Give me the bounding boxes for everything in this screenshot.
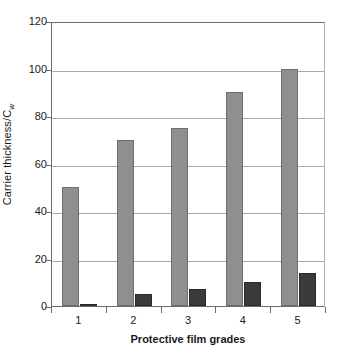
bar [189, 289, 206, 306]
bar [62, 187, 79, 306]
x-axis-title: Protective film grades [51, 333, 325, 345]
bar [135, 294, 152, 306]
y-axis-title-subscript: w [8, 104, 17, 110]
bar-chart: Carrier thickness/Cw 020406080100120 123… [0, 0, 338, 354]
y-axis-tick-label: 0 [18, 301, 47, 312]
y-axis-title: Carrier thickness/Cw [0, 0, 18, 310]
bar [171, 128, 188, 306]
x-axis-tick-mark [325, 307, 326, 313]
x-axis-tick-label: 1 [75, 314, 81, 326]
bar [281, 69, 298, 307]
plot-area [51, 22, 325, 307]
x-axis-tick-mark [106, 307, 107, 313]
bar [244, 282, 261, 306]
y-axis-tick-mark [45, 70, 51, 71]
y-axis-tick-mark [45, 165, 51, 166]
y-axis-tick-label: 120 [18, 16, 47, 27]
y-axis-tick-labels: 020406080100120 [18, 0, 47, 330]
x-axis-tick-mark [51, 307, 52, 313]
y-axis-tick-mark [45, 22, 51, 23]
y-axis-tick-mark [45, 212, 51, 213]
x-axis-tick-mark [270, 307, 271, 313]
x-axis-tick-label: 4 [240, 314, 246, 326]
bar [117, 140, 134, 306]
bar [226, 92, 243, 306]
y-axis-tick-label: 40 [18, 206, 47, 217]
x-axis-tick-mark [215, 307, 216, 313]
bar-group [107, 23, 162, 306]
x-axis-tick-label: 3 [185, 314, 191, 326]
bar [80, 304, 97, 306]
y-axis-tick-mark [45, 260, 51, 261]
bar-group [52, 23, 107, 306]
bar-group [162, 23, 217, 306]
y-axis-tick-label: 60 [18, 159, 47, 170]
x-axis-tick-label: 2 [130, 314, 136, 326]
x-axis-tick-labels: 12345 [51, 314, 325, 330]
y-axis-tick-label: 100 [18, 64, 47, 75]
x-axis-tick-mark [161, 307, 162, 313]
y-axis-title-text: Carrier thickness/C [1, 110, 13, 205]
bar-group [271, 23, 326, 306]
bar [299, 273, 316, 306]
bar-group [216, 23, 271, 306]
y-axis-tick-label: 80 [18, 111, 47, 122]
y-axis-tick-mark [45, 117, 51, 118]
x-axis-tick-label: 5 [295, 314, 301, 326]
y-axis-tick-label: 20 [18, 254, 47, 265]
